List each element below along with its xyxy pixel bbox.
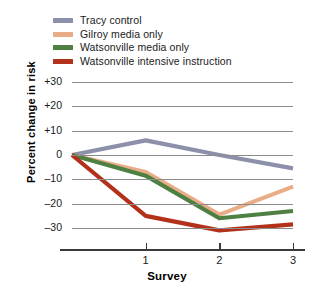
legend-label-watsonville-intensive-instruction: Watsonville intensive instruction [80,55,232,69]
y-tick-label: –10 [22,172,62,184]
gridline [72,204,293,205]
plot-area [72,82,293,228]
legend-swatch-watsonville-media-only [53,45,73,50]
x-axis-line [60,249,305,251]
x-tick [293,243,294,250]
legend-item: Gilroy media only [53,28,232,42]
x-tick-label: 1 [134,254,158,266]
legend-item: Tracy control [53,14,232,28]
gridline [72,106,293,107]
gridline [72,179,293,180]
gridline [72,228,293,229]
gridline [72,155,293,156]
y-tick-label: 0 [22,148,62,160]
x-tick-label: 3 [281,254,305,266]
x-axis-title: Survey [0,270,334,282]
y-tick-label: +20 [22,99,62,111]
gridline [72,131,293,132]
y-tick-label: –20 [22,197,62,209]
legend-swatch-watsonville-intensive-instruction [53,59,73,64]
x-tick [219,243,220,250]
x-tick [146,243,147,250]
legend-swatch-gilroy-media-only [53,32,73,37]
legend-item: Watsonville intensive instruction [53,55,232,69]
legend-item: Watsonville media only [53,41,232,55]
y-tick-label: +30 [22,75,62,87]
legend-swatch-tracy-control [53,18,73,23]
y-tick-label: –30 [22,221,62,233]
legend-label-gilroy-media-only: Gilroy media only [80,28,163,42]
chart-legend: Tracy control Gilroy media only Watsonvi… [53,14,232,68]
x-tick-label: 2 [207,254,231,266]
y-tick-label: +10 [22,124,62,136]
legend-label-tracy-control: Tracy control [80,14,142,28]
chart-figure: Tracy control Gilroy media only Watsonvi… [0,0,334,292]
legend-label-watsonville-media-only: Watsonville media only [80,41,189,55]
gridline [72,82,293,83]
